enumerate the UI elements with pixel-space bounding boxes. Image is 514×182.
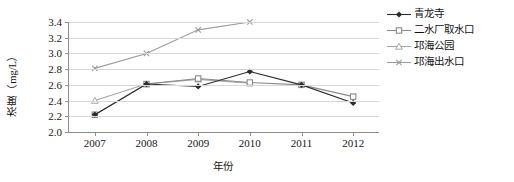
x-tick-mark: [95, 132, 96, 136]
y-tick-label: 2.0: [48, 126, 62, 138]
y-tick-mark: [65, 38, 69, 39]
legend-label: 邛海出水口: [414, 57, 464, 68]
y-tick-mark: [65, 132, 69, 133]
x-tick-mark: [302, 132, 303, 136]
series-line: [95, 72, 353, 115]
legend-marker-cross-icon: [386, 57, 412, 68]
plot-area: 2.02.22.42.62.83.03.23.42007200820092010…: [68, 22, 379, 133]
x-tick-mark: [353, 132, 354, 136]
y-tick-mark: [65, 116, 69, 117]
y-tick-mark: [65, 85, 69, 86]
legend-label: 青龙寺: [414, 9, 444, 20]
gridline: [69, 101, 379, 102]
x-tick-mark: [250, 132, 251, 136]
y-tick-mark: [65, 53, 69, 54]
y-tick-label: 2.4: [48, 95, 62, 107]
legend-label: 二水厂取水口: [414, 25, 474, 36]
legend-marker-filled-diamond-icon: [386, 9, 412, 20]
x-tick-mark: [198, 132, 199, 136]
gridline: [69, 116, 379, 117]
legend-item-3[interactable]: 邛海公园: [386, 40, 474, 53]
x-tick-label: 2012: [342, 137, 364, 149]
x-axis-title: 年份: [68, 158, 378, 173]
data-point-filled-square: [396, 28, 401, 33]
gridline: [69, 38, 379, 39]
y-tick-label: 3.4: [48, 16, 62, 28]
series-line: [95, 22, 250, 68]
data-point-filled-diamond: [396, 11, 402, 17]
legend-item-4[interactable]: 邛海出水口: [386, 56, 474, 69]
x-tick-mark: [147, 132, 148, 136]
y-axis-title: 浓度（mg/L）: [2, 28, 24, 138]
data-point-filled-square: [350, 94, 355, 99]
gridline: [69, 22, 379, 23]
x-tick-label: 2010: [239, 137, 261, 149]
legend-marker-filled-square-icon: [386, 25, 412, 36]
legend-marker-triangle-icon: [386, 41, 412, 52]
legend-label: 邛海公园: [414, 41, 454, 52]
series-line: [95, 79, 250, 100]
gridline: [69, 85, 379, 86]
legend-item-1[interactable]: 青龙寺: [386, 8, 474, 21]
line-chart: 浓度（mg/L） 2.02.22.42.62.83.03.23.42007200…: [0, 0, 514, 182]
x-tick-label: 2007: [84, 137, 106, 149]
x-tick-label: 2011: [291, 137, 313, 149]
gridline: [69, 69, 379, 70]
chart-legend: 青龙寺二水厂取水口邛海公园邛海出水口: [386, 8, 474, 69]
x-tick-label: 2009: [187, 137, 209, 149]
y-tick-label: 2.6: [48, 79, 62, 91]
y-tick-label: 3.2: [48, 32, 62, 44]
gridline: [69, 53, 379, 54]
y-axis-title-text: 浓度（mg/L）: [8, 50, 19, 117]
data-point-filled-square: [195, 76, 200, 81]
y-tick-label: 2.2: [48, 110, 62, 122]
x-tick-label: 2008: [136, 137, 158, 149]
y-tick-mark: [65, 69, 69, 70]
legend-item-2[interactable]: 二水厂取水口: [386, 24, 474, 37]
y-tick-mark: [65, 22, 69, 23]
y-tick-mark: [65, 101, 69, 102]
y-tick-label: 3.0: [48, 47, 62, 59]
y-tick-label: 2.8: [48, 63, 62, 75]
